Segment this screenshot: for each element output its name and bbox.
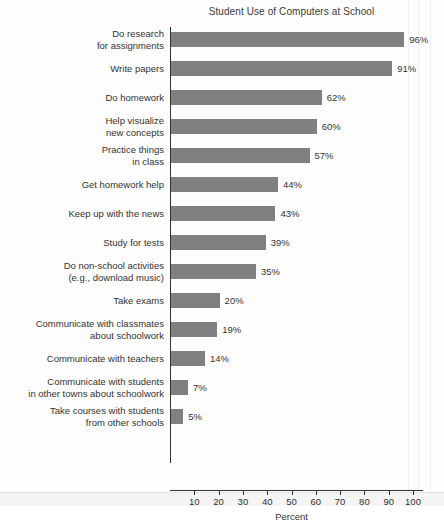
x-axis-tick	[219, 491, 220, 495]
bar-category-label-line: Communicate with students	[0, 376, 164, 388]
bar-category-label-line: Communicate with classmates	[0, 318, 164, 330]
bar-category-label-line: new concepts	[0, 127, 164, 139]
x-axis-tick	[389, 491, 390, 495]
x-axis-tick	[243, 491, 244, 495]
bar-category-label-line: Take courses with students	[0, 405, 164, 417]
x-axis-tick-label: 30	[238, 496, 249, 507]
bar-category-label: Communicate with teachers	[0, 353, 164, 365]
bar	[171, 61, 392, 76]
bar-row: Practice thingsin class57%	[0, 147, 444, 176]
bar	[171, 409, 183, 424]
x-axis-tick-label: 10	[189, 496, 200, 507]
bar-row: Keep up with the news43%	[0, 205, 444, 234]
bar-category-label: Help visualizenew concepts	[0, 115, 164, 138]
x-axis-tick-label: 100	[405, 496, 421, 507]
bar-value-label: 19%	[222, 324, 241, 335]
bar-row: Help visualizenew concepts60%	[0, 118, 444, 147]
x-axis-tick-label: 40	[262, 496, 273, 507]
bar-value-label: 96%	[409, 34, 428, 45]
x-axis-title: Percent	[170, 511, 413, 522]
x-axis-tick-label: 20	[213, 496, 224, 507]
bar	[171, 206, 275, 221]
bar	[171, 32, 404, 47]
plot-area: Do researchfor assignments96%Write paper…	[0, 27, 444, 463]
bar-value-label: 91%	[397, 63, 416, 74]
bar-category-label-line: Study for tests	[0, 237, 164, 249]
bar-row: Study for tests39%	[0, 234, 444, 263]
bar-category-label: Do researchfor assignments	[0, 28, 164, 51]
bar-category-label-line: Write papers	[0, 63, 164, 75]
bar	[171, 322, 217, 337]
bar-value-label: 20%	[225, 295, 244, 306]
x-axis-tick-label: 70	[335, 496, 346, 507]
bar-category-label-line: Practice things	[0, 144, 164, 156]
x-axis-tick	[316, 491, 317, 495]
bar	[171, 380, 188, 395]
bar-value-label: 7%	[193, 382, 207, 393]
bar	[171, 177, 278, 192]
bar-value-label: 57%	[315, 150, 334, 161]
x-axis-tick	[292, 491, 293, 495]
x-axis-line	[170, 490, 423, 491]
x-axis-tick	[267, 491, 268, 495]
bar-category-label-line: Communicate with teachers	[0, 353, 164, 365]
bar-category-label: Communicate with classmatesabout schoolw…	[0, 318, 164, 341]
bar-category-label-line: Keep up with the news	[0, 208, 164, 220]
bar	[171, 148, 310, 163]
bar-category-label: Do non-school activities(e.g., download …	[0, 260, 164, 283]
x-axis-tick	[413, 491, 414, 495]
bar-category-label: Communicate with studentsin other towns …	[0, 376, 164, 399]
bar-category-label: Practice thingsin class	[0, 144, 164, 167]
bar-row: Do researchfor assignments96%	[0, 31, 444, 60]
bar-row: Take courses with studentsfrom other sch…	[0, 408, 444, 437]
bar-category-label: Get homework help	[0, 179, 164, 191]
bar-category-label-line: about schoolwork	[0, 330, 164, 342]
bar-category-label-line: Help visualize	[0, 115, 164, 127]
bar-category-label: Write papers	[0, 63, 164, 75]
bar-value-label: 14%	[210, 353, 229, 364]
bar-row: Get homework help44%	[0, 176, 444, 205]
bar-category-label-line: in other towns about schoolwork	[0, 388, 164, 400]
bar-category-label: Keep up with the news	[0, 208, 164, 220]
bar-row: Do homework62%	[0, 89, 444, 118]
x-axis-tick-label: 90	[383, 496, 394, 507]
bar-category-label-line: (e.g., download music)	[0, 272, 164, 284]
bar-value-label: 44%	[283, 179, 302, 190]
bar-category-label-line: Do research	[0, 28, 164, 40]
bar-row: Take exams20%	[0, 292, 444, 321]
bar	[171, 119, 317, 134]
bar-category-label-line: Do non-school activities	[0, 260, 164, 272]
bar-category-label-line: in class	[0, 156, 164, 168]
bar	[171, 235, 266, 250]
bar	[171, 351, 205, 366]
x-axis-tick	[364, 491, 365, 495]
x-axis-tick-label: 50	[286, 496, 297, 507]
bar-category-label-line: Take exams	[0, 295, 164, 307]
bar-value-label: 43%	[280, 208, 299, 219]
bar-row: Communicate with classmatesabout schoolw…	[0, 321, 444, 350]
bar-value-label: 35%	[261, 266, 280, 277]
bar	[171, 90, 322, 105]
x-axis-tick-label: 60	[311, 496, 322, 507]
x-axis-tick	[194, 491, 195, 495]
x-axis-tick-label: 80	[359, 496, 370, 507]
bar-row: Do non-school activities(e.g., download …	[0, 263, 444, 292]
bar-category-label-line: Get homework help	[0, 179, 164, 191]
bar	[171, 293, 220, 308]
bar-category-label: Take courses with studentsfrom other sch…	[0, 405, 164, 428]
bar-row: Write papers91%	[0, 60, 444, 89]
bar-value-label: 5%	[188, 411, 202, 422]
x-axis-tick	[340, 491, 341, 495]
bar-category-label-line: for assignments	[0, 40, 164, 52]
bar-value-label: 39%	[271, 237, 290, 248]
bar	[171, 264, 256, 279]
bar-category-label: Study for tests	[0, 237, 164, 249]
bar-category-label: Do homework	[0, 92, 164, 104]
bar-category-label-line: Do homework	[0, 92, 164, 104]
bar-value-label: 62%	[327, 92, 346, 103]
bar-value-label: 60%	[322, 121, 341, 132]
bar-category-label: Take exams	[0, 295, 164, 307]
bar-row: Communicate with teachers14%	[0, 350, 444, 379]
bar-category-label-line: from other schools	[0, 417, 164, 429]
